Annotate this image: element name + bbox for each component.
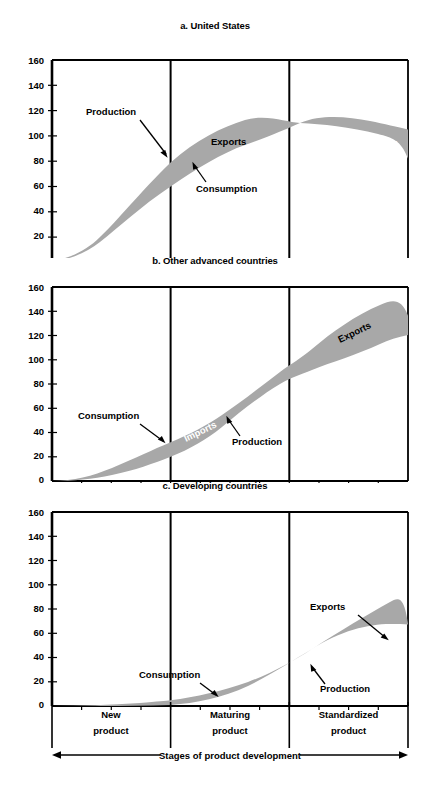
stages-caption: Stages of product development — [159, 750, 302, 761]
panel-b-consumption-label: Consumption — [78, 410, 139, 421]
panel-c-production-arrow — [310, 664, 325, 684]
stage-2-label-line1: Maturing — [210, 709, 250, 720]
y-tick-60: 60 — [33, 627, 44, 638]
panel-b-chart: 160 140 120 100 80 60 40 20 0 — [0, 267, 430, 483]
panel-a-y-axis-labels: 160 140 120 100 80 60 40 20 0 — [28, 55, 44, 258]
y-tick-40: 40 — [33, 205, 44, 216]
panel-a-plot-frame — [52, 60, 408, 258]
panel-c-chart: 160 140 120 100 80 60 40 20 0 — [0, 492, 430, 710]
y-tick-100: 100 — [28, 579, 44, 590]
panel-united-states: a. United States 160 140 120 100 80 60 4… — [0, 20, 430, 258]
y-tick-20: 20 — [33, 675, 44, 686]
panel-a-exports-label: Exports — [211, 136, 246, 147]
y-tick-80: 80 — [33, 155, 44, 166]
panel-b-plot-frame — [52, 287, 408, 481]
y-tick-160: 160 — [28, 507, 44, 518]
panel-a-title: a. United States — [0, 20, 430, 31]
y-tick-160: 160 — [28, 282, 44, 293]
y-tick-120: 120 — [28, 555, 44, 566]
y-tick-120: 120 — [28, 330, 44, 341]
panel-c-y-axis-labels: 160 140 120 100 80 60 40 20 0 — [28, 507, 44, 710]
y-tick-160: 160 — [28, 55, 44, 66]
panel-c-title: c. Developing countries — [0, 480, 430, 491]
stage-1-label-line2: product — [93, 725, 129, 736]
y-tick-40: 40 — [33, 651, 44, 662]
panel-developing-countries: c. Developing countries 160 140 120 100 … — [0, 480, 430, 710]
panel-b-production-label: Production — [232, 436, 282, 447]
y-tick-20: 20 — [33, 230, 44, 241]
stage-2-label-line2: product — [212, 725, 248, 736]
panel-c-consumption-label: Consumption — [139, 669, 200, 680]
panel-a-imports-label: Imports — [363, 137, 398, 148]
y-tick-20: 20 — [33, 450, 44, 461]
panel-a-chart: 160 140 120 100 80 60 40 20 0 — [0, 32, 430, 258]
y-tick-140: 140 — [28, 306, 44, 317]
y-tick-60: 60 — [33, 180, 44, 191]
panel-b-title: b. Other advanced countries — [0, 255, 430, 266]
y-tick-60: 60 — [33, 402, 44, 413]
panel-c-exports-label: Exports — [310, 601, 345, 612]
panel-b-consumption-arrow — [140, 424, 166, 443]
y-tick-40: 40 — [33, 426, 44, 437]
y-tick-140: 140 — [28, 531, 44, 542]
y-tick-120: 120 — [28, 105, 44, 116]
y-tick-80: 80 — [33, 603, 44, 614]
panel-a-production-arrow — [140, 120, 168, 158]
stage-3-label-line1: Standardized — [319, 709, 379, 720]
y-tick-100: 100 — [28, 130, 44, 141]
panel-a-production-label: Production — [86, 106, 136, 117]
panel-b-y-axis-labels: 160 140 120 100 80 60 40 20 0 — [28, 282, 44, 483]
panel-other-advanced-countries: b. Other advanced countries 160 140 120 … — [0, 255, 430, 483]
panel-c-production-label: Production — [320, 683, 370, 694]
stage-3-label-line2: product — [331, 725, 367, 736]
panel-b-production-arrow — [226, 416, 240, 436]
stage-1-label-line1: New — [101, 709, 121, 720]
figure-page: a. United States 160 140 120 100 80 60 4… — [0, 0, 430, 799]
stages-footer: New product Maturing product Standardize… — [0, 700, 430, 780]
panel-a-consumption-label: Consumption — [196, 183, 257, 194]
y-tick-140: 140 — [28, 80, 44, 91]
y-tick-100: 100 — [28, 354, 44, 365]
y-tick-80: 80 — [33, 378, 44, 389]
